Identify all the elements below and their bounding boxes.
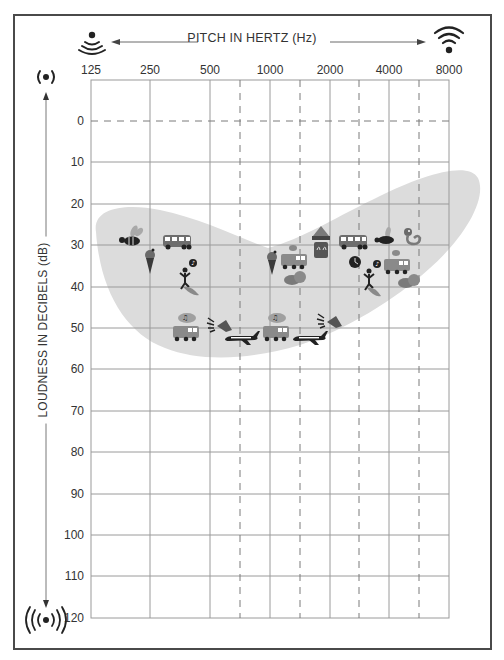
loud-sound-icon — [26, 607, 66, 633]
audiogram-plot: ♪ ♫ — [0, 0, 504, 660]
svg-text:♫: ♫ — [182, 314, 188, 322]
high-pitch-sound-icon — [435, 28, 463, 54]
y-axis-title: LOUDNESS IN DECIBELS (dB) — [36, 236, 50, 423]
pitch-arrow — [111, 39, 426, 45]
svg-text:♫: ♫ — [272, 314, 278, 322]
clock-ticking-icon — [349, 256, 361, 268]
svg-text:♪: ♪ — [191, 259, 195, 266]
grid — [91, 80, 449, 618]
quiet-sound-icon — [38, 71, 54, 83]
svg-text:♪: ♪ — [375, 260, 379, 267]
low-pitch-sound-icon — [79, 32, 105, 54]
